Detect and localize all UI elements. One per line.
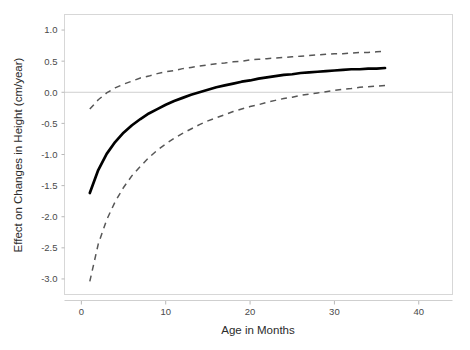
chart-svg: 1.00.50.0-0.5-1.0-1.5-2.0-2.5-3.0 010203… <box>0 0 470 350</box>
plot-panel <box>65 15 453 295</box>
y-axis-title: Effect on Changes in Height (cm/year) <box>12 57 24 252</box>
y-tick-label: 0.0 <box>44 87 57 98</box>
y-tick-label: -1.5 <box>41 180 57 191</box>
figure-container: 1.00.50.0-0.5-1.0-1.5-2.0-2.5-3.0 010203… <box>0 0 470 350</box>
x-axis-title: Age in Months <box>221 324 295 336</box>
y-tick-label: 1.0 <box>44 24 57 35</box>
y-tick-label: -0.5 <box>41 118 57 129</box>
x-tick-label: 40 <box>413 306 424 317</box>
y-tick-label: -3.0 <box>41 273 57 284</box>
y-tick-label: 0.5 <box>44 56 57 67</box>
y-tick-label: -2.5 <box>41 242 57 253</box>
x-tick-label: 20 <box>245 306 256 317</box>
x-tick-label: 0 <box>79 306 84 317</box>
y-tick-label: -2.0 <box>41 211 57 222</box>
x-tick-label: 30 <box>329 306 340 317</box>
page-caption-artifact <box>0 344 470 350</box>
x-tick-label: 10 <box>160 306 171 317</box>
y-tick-label: -1.0 <box>41 149 57 160</box>
